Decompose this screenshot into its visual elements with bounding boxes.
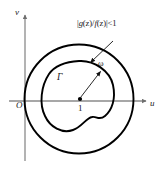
condition-relation: <1: [108, 18, 117, 28]
u-axis-label: u: [150, 99, 155, 108]
omega-vector-arrow: [81, 72, 101, 98]
point-one-label: 1: [78, 104, 83, 113]
figure-canvas: v u O Γ ω 1 |g(z)/f(z)|<1: [0, 0, 165, 169]
point-marker-dot: [78, 97, 82, 101]
omega-vector-label: ω: [98, 59, 104, 68]
condition-den-arg: (z): [97, 18, 106, 28]
v-axis-label: v: [15, 8, 19, 17]
origin-label: O: [16, 101, 23, 110]
gamma-curve-label: Γ: [57, 73, 62, 83]
condition-num-arg: (z): [83, 18, 92, 28]
axes-group: [9, 15, 146, 161]
inner-curve-gamma: [42, 61, 114, 131]
condition-label: |g(z)/f(z)|<1: [77, 19, 117, 28]
